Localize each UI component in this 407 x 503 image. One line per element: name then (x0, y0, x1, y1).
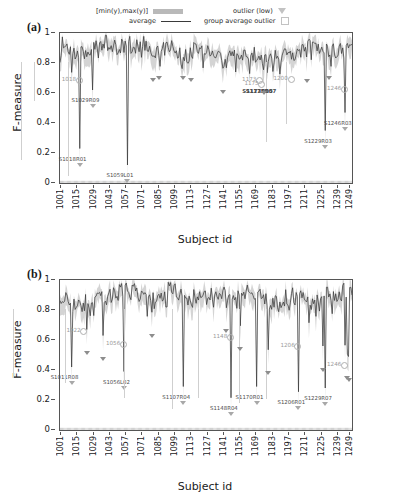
outlier-marker[interactable] (342, 127, 348, 131)
baseline-tick (94, 428, 95, 430)
outlier-marker[interactable] (223, 329, 229, 333)
x-tick-label: 1085 (154, 189, 163, 209)
baseline-tick (60, 428, 61, 430)
baseline-tick (226, 428, 227, 430)
baseline-tick (347, 428, 348, 430)
baseline-tick (94, 181, 95, 183)
baseline-tick (300, 428, 301, 430)
legend-entry-range: [min(y),max(y)] (96, 7, 183, 15)
baseline-tick (93, 428, 94, 430)
baseline-tick (209, 181, 210, 183)
group-average-outlier-marker[interactable] (341, 86, 348, 93)
baseline-tick (208, 428, 209, 430)
outlier-marker[interactable] (156, 76, 162, 80)
outlier-marker[interactable] (228, 412, 234, 416)
x-tick-mark (93, 432, 94, 435)
outlier-marker[interactable] (237, 347, 243, 351)
baseline-tick (80, 428, 81, 430)
baseline-tick (267, 181, 268, 183)
outlier-marker[interactable] (346, 378, 352, 382)
baseline-tick (282, 181, 283, 183)
baseline-tick (103, 181, 104, 183)
baseline-tick (98, 428, 99, 430)
baseline-tick (212, 428, 213, 430)
baseline-tick (61, 428, 62, 430)
panel-a-plot-area (59, 32, 353, 184)
baseline-tick (279, 428, 280, 430)
y-tick-label: 0.4 (10, 117, 50, 127)
outlier-marker[interactable] (304, 79, 310, 83)
group-average-outlier-marker[interactable] (227, 334, 234, 341)
baseline-tick (297, 428, 298, 430)
baseline-tick (235, 181, 236, 183)
baseline-tick (109, 181, 110, 183)
baseline-tick (337, 181, 338, 183)
x-tick-mark (223, 432, 224, 435)
baseline-tick (332, 181, 333, 183)
outlier-stem (34, 62, 35, 101)
baseline-tick (318, 181, 319, 183)
baseline-tick (266, 428, 267, 430)
panel-b: (b) F-measure 00.20.40.60.81 10011015102… (0, 265, 407, 501)
baseline-tick (295, 428, 296, 430)
outlier-marker[interactable] (69, 381, 75, 385)
baseline-tick (251, 428, 252, 430)
x-tick-label: 1225 (317, 436, 326, 456)
outlier-marker[interactable] (100, 357, 106, 361)
outlier-marker[interactable] (322, 402, 328, 406)
outlier-marker[interactable] (320, 368, 326, 372)
baseline-tick (116, 181, 117, 183)
group-outlier-label: 1206 (280, 342, 294, 348)
baseline-tick (224, 428, 225, 430)
baseline-tick (293, 428, 294, 430)
x-tick-mark (337, 185, 338, 188)
baseline-tick (115, 428, 116, 430)
baseline-tick (326, 428, 327, 430)
baseline-tick (183, 428, 184, 430)
baseline-tick (70, 428, 71, 430)
baseline-tick (340, 428, 341, 430)
outlier-marker[interactable] (261, 91, 267, 95)
outlier-marker[interactable] (180, 401, 186, 405)
baseline-tick (241, 428, 242, 430)
baseline-tick (148, 181, 149, 183)
x-tick-mark (141, 432, 142, 435)
outlier-marker[interactable] (149, 334, 155, 338)
outlier-marker[interactable] (84, 351, 90, 355)
outlier-marker[interactable] (220, 90, 226, 94)
outlier-marker[interactable] (77, 163, 83, 167)
baseline-tick (302, 428, 303, 430)
baseline-tick (60, 181, 61, 183)
x-tick-mark (207, 432, 208, 435)
outlier-marker[interactable] (254, 401, 260, 405)
baseline-tick (97, 428, 98, 430)
outlier-marker[interactable] (180, 76, 186, 80)
group-average-outlier-marker[interactable] (288, 76, 295, 83)
y-tick-label: 1 (10, 27, 50, 37)
range-band-swatch (153, 9, 183, 14)
baseline-tick (343, 428, 344, 430)
outlier-marker[interactable] (295, 406, 301, 410)
baseline-tick (103, 428, 104, 430)
baseline-tick (281, 428, 282, 430)
outlier-marker[interactable] (322, 145, 328, 149)
outlier-marker[interactable] (326, 76, 332, 80)
baseline-tick (339, 428, 340, 430)
baseline-tick (83, 428, 84, 430)
baseline-tick (180, 428, 181, 430)
baseline-tick (223, 181, 224, 183)
baseline-tick (350, 181, 351, 183)
baseline-tick (115, 181, 116, 183)
outlier-marker[interactable] (188, 78, 194, 82)
baseline-tick (271, 428, 272, 430)
baseline-tick (312, 428, 313, 430)
y-tick-label: 0 (10, 424, 50, 434)
baseline-tick (243, 181, 244, 183)
x-tick-mark (109, 185, 110, 188)
outlier-marker[interactable] (265, 371, 271, 375)
outlier-marker[interactable] (124, 179, 130, 183)
group-average-outlier-marker[interactable] (76, 77, 83, 84)
outlier-marker[interactable] (90, 104, 96, 108)
baseline-tick (75, 181, 76, 183)
baseline-tick (104, 181, 105, 183)
